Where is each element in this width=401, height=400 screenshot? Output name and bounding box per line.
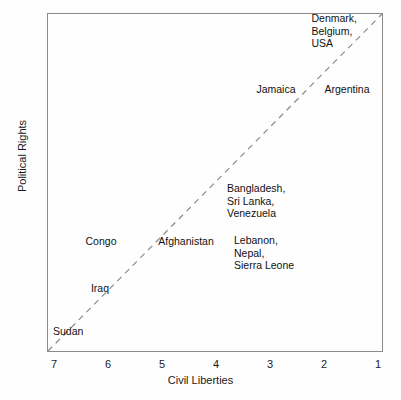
data-point-label: Denmark, Belgium, USA bbox=[311, 12, 357, 50]
data-point-label: Lebanon, Nepal, Sierra Leone bbox=[234, 234, 294, 272]
x-axis-title: Civil Liberties bbox=[0, 374, 401, 386]
x-axis-tick: 1 bbox=[375, 358, 381, 370]
x-axis-tick: 6 bbox=[105, 358, 111, 370]
data-point-label: Iraq bbox=[91, 282, 109, 295]
data-point-label: Bangladesh, Sri Lanka, Venezuela bbox=[227, 182, 285, 220]
scatter-plot-figure: Political Rights 1234567 Denmark, Belgiu… bbox=[0, 0, 401, 400]
x-axis-tick: 5 bbox=[159, 358, 165, 370]
identity-line bbox=[48, 14, 382, 351]
x-axis-tick: 2 bbox=[321, 358, 327, 370]
data-point-label: Afghanistan bbox=[158, 235, 213, 248]
y-axis-tick-layer: 1234567 bbox=[0, 0, 42, 400]
data-point-label: Sudan bbox=[53, 325, 83, 338]
x-axis-tick: 3 bbox=[267, 358, 273, 370]
x-axis-tick-layer: 7654321 bbox=[0, 358, 401, 374]
data-point-label: Jamaica bbox=[256, 83, 295, 96]
x-axis-tick: 7 bbox=[51, 358, 57, 370]
x-axis-tick: 4 bbox=[213, 358, 219, 370]
data-point-label: Congo bbox=[86, 235, 117, 248]
plot-area: Denmark, Belgium, USAJamaicaArgentinaBan… bbox=[47, 13, 383, 352]
data-point-label: Argentina bbox=[325, 83, 370, 96]
